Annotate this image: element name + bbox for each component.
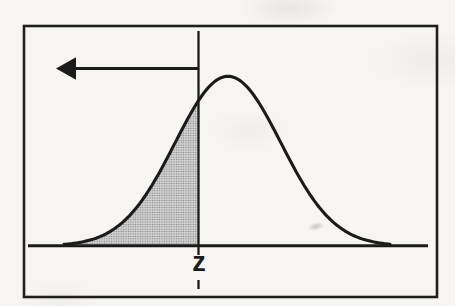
normal-curve: [64, 76, 390, 244]
shaded-area-left-of-z: [64, 101, 199, 246]
left-arrow-head-icon: [56, 57, 76, 80]
z-axis-label: z: [187, 249, 211, 276]
normal-distribution-figure: [0, 0, 455, 306]
scanned-figure-page: z: [0, 0, 455, 306]
figure-frame-border: [24, 26, 437, 297]
left-arrow: [56, 57, 199, 80]
